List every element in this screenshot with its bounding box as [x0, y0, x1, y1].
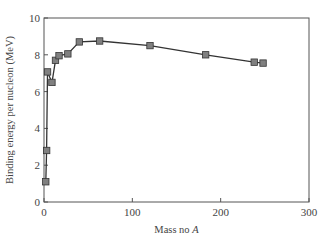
x-axis-ticks: 0100200300 [41, 198, 318, 218]
series-line [46, 41, 263, 182]
y-tick-label: 0 [35, 196, 41, 208]
data-point-marker [49, 79, 55, 85]
data-point-marker [65, 51, 71, 57]
y-axis-label: Binding energy per nucleon (MeV) [4, 36, 16, 184]
data-point-marker [56, 53, 62, 59]
y-tick-label: 4 [35, 122, 41, 134]
x-axis-label: Mass no A [154, 224, 199, 235]
y-tick-label: 6 [35, 86, 41, 98]
y-tick-label: 10 [29, 12, 41, 24]
x-tick-label: 200 [212, 206, 229, 218]
y-tick-label: 8 [35, 49, 41, 61]
plot-frame [44, 18, 309, 202]
x-tick-label: 0 [41, 206, 47, 218]
data-point-marker [43, 147, 49, 153]
data-point-marker [76, 39, 82, 45]
data-point-marker [44, 69, 50, 75]
data-point-marker [251, 59, 257, 65]
data-point-marker [96, 38, 102, 44]
plot-area-border [44, 18, 309, 202]
binding-energy-chart: 0100200300 0246810 Mass no A Binding ene… [0, 0, 330, 242]
data-point-marker [147, 42, 153, 48]
x-tick-label: 100 [124, 206, 141, 218]
y-tick-label: 2 [35, 159, 41, 171]
x-tick-label: 300 [301, 206, 318, 218]
data-point-marker [260, 60, 266, 66]
data-series [43, 38, 267, 185]
data-point-marker [43, 179, 49, 185]
data-point-marker [202, 52, 208, 58]
